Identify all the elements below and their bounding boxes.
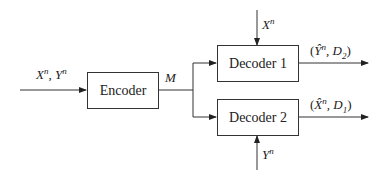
decoder-2-block: Decoder 2 <box>217 99 299 136</box>
output-2-label: (X̂n, D1) <box>310 96 352 115</box>
message-label: M <box>165 70 176 86</box>
side-info-x-label: Xn <box>262 16 274 33</box>
encoder-block: Encoder <box>87 72 159 109</box>
decoder-1-block: Decoder 1 <box>217 45 299 82</box>
input-label: Xn, Yn <box>36 66 67 83</box>
side-info-y-label: Yn <box>262 146 274 163</box>
output-1-label: (Ŷn, D2) <box>310 42 351 61</box>
connector-lines <box>0 0 385 182</box>
